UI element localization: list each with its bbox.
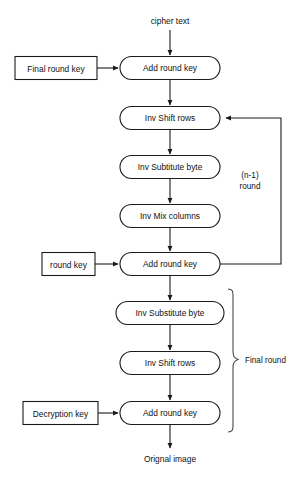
process-box-inv-subtitute-byte: Inv Subtitute byte: [120, 156, 220, 179]
loop-label-line-2: round: [240, 182, 261, 191]
process-box-add-round-key-2: Add round key: [120, 253, 220, 276]
key-box-final-round-key: Final round key: [15, 57, 97, 80]
flowchart-canvas: cipher text Final round key Add round ke…: [0, 0, 301, 479]
process-box-inv-shift-rows-2: Inv Shift rows: [120, 352, 220, 375]
round-key-label: round key: [50, 260, 88, 270]
output-label: Orignal image: [144, 454, 196, 464]
decryption-flowchart: cipher text Final round key Add round ke…: [0, 0, 301, 479]
loop-label-line-1: (n-1): [241, 171, 259, 180]
process-box-add-round-key-3: Add round key: [120, 402, 220, 425]
input-label: cipher text: [151, 16, 190, 26]
inv-shift-rows-2-label: Inv Shift rows: [145, 358, 195, 368]
final-round-label: Final round: [245, 356, 286, 365]
inv-shift-rows-1-label: Inv Shift rows: [145, 113, 195, 123]
process-box-inv-mix-columns: Inv Mix columns: [120, 205, 220, 228]
inv-subtitute-byte-label: Inv Subtitute byte: [138, 162, 203, 172]
add-round-key-2-label: Add round key: [143, 259, 198, 269]
connector-feedback-loop-n-minus-1-round: [220, 118, 281, 264]
final-round-key-label: Final round key: [27, 64, 85, 74]
process-box-inv-substitute-byte: Inv Substitute byte: [116, 302, 224, 325]
process-box-inv-shift-rows-1: Inv Shift rows: [120, 107, 220, 130]
add-round-key-1-label: Add round key: [143, 63, 198, 73]
add-round-key-3-label: Add round key: [143, 408, 198, 418]
process-box-add-round-key-1: Add round key: [120, 57, 220, 80]
inv-mix-columns-label: Inv Mix columns: [140, 211, 200, 221]
inv-substitute-byte-label: Inv Substitute byte: [136, 308, 205, 318]
key-box-round-key: round key: [42, 253, 95, 276]
final-round-brace: [228, 289, 238, 432]
decryption-key-label: Decryption key: [33, 409, 89, 419]
key-box-decryption-key: Decryption key: [23, 402, 98, 425]
